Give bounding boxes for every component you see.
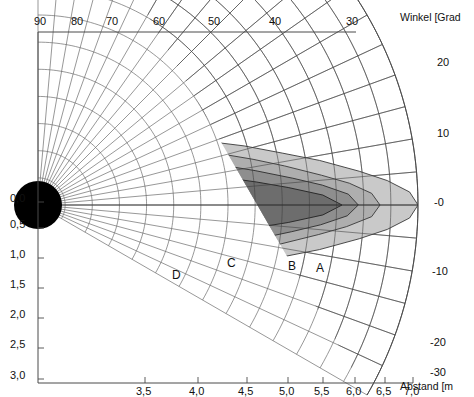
bottomTicks-item: 4,5 xyxy=(238,386,253,397)
zone-label-d: D xyxy=(172,269,181,281)
rightTicks-item: 20 xyxy=(437,57,449,68)
rightTicks-item: 10 xyxy=(437,128,449,139)
leftTicks-item: 1,5 xyxy=(10,279,25,290)
rightTicks-item: -30 xyxy=(430,367,446,378)
chart-canvas xyxy=(0,0,474,397)
topTicks-item: 30 xyxy=(346,16,358,27)
leftTicks-item: 2,0 xyxy=(10,309,25,320)
bottomTicks-item: 5,5 xyxy=(314,386,329,397)
polar-coverage-figure: 90807060504030 0,00,51,01,52,02,53,0 3,5… xyxy=(0,0,474,397)
angle-axis-title: Winkel [Grad xyxy=(400,12,461,23)
topTicks-item: 80 xyxy=(71,16,83,27)
topTicks-item: 60 xyxy=(153,16,165,27)
topTicks-item: 90 xyxy=(34,16,46,27)
rightTicks-item: -10 xyxy=(432,266,448,277)
bottomTicks-item: 4,0 xyxy=(189,386,204,397)
bottomTicks-item: 5,0 xyxy=(279,386,294,397)
zone-label-b: B xyxy=(288,260,296,272)
topTicks-item: 70 xyxy=(106,16,118,27)
bottomTicks-item: 3,5 xyxy=(136,386,151,397)
leftTicks-item: 1,0 xyxy=(10,249,25,260)
topTicks-item: 50 xyxy=(208,16,220,27)
rightTicks-item: -0 xyxy=(434,197,444,208)
zone-label-a: A xyxy=(316,262,324,274)
rightTicks-item: -20 xyxy=(430,337,446,348)
bottomTicks-item: 6,5 xyxy=(376,386,391,397)
topTicks-item: 40 xyxy=(269,16,281,27)
leftTicks-item: 3,0 xyxy=(10,370,25,381)
bottomTicks-item: 6,0 xyxy=(346,386,361,397)
leftTicks-item: 0,0 xyxy=(10,193,25,204)
zone-label-c: C xyxy=(227,257,236,269)
distance-axis-title: Abstand [m xyxy=(400,381,453,392)
leftTicks-item: 2,5 xyxy=(10,339,25,350)
leftTicks-item: 0,5 xyxy=(10,219,25,230)
